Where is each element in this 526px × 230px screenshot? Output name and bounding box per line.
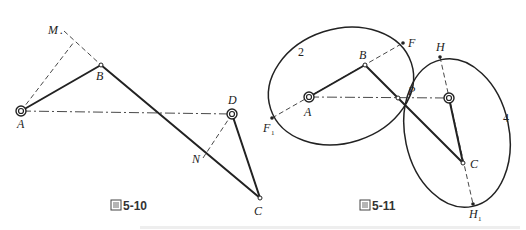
figure-5-10: M . B A D N C 5-10 [16, 23, 263, 218]
label-gear-4: 4 [503, 111, 509, 125]
label-d: D [227, 93, 237, 107]
label-h1-sub: 1 [478, 215, 482, 223]
label-n: N [191, 152, 201, 166]
perpendicular-am [21, 42, 74, 111]
joint-c-icon [258, 196, 262, 200]
svg-text:.: . [60, 23, 63, 37]
link-dc-2 [449, 98, 463, 163]
diagram-canvas: M . B A D N C 5-10 [0, 0, 526, 230]
caption-fig-5-11: 5-11 [372, 199, 396, 213]
label-m: M [47, 23, 59, 37]
frame-centerline-2 [309, 97, 449, 98]
joint-b2-icon [363, 63, 367, 67]
label-b: B [96, 69, 104, 83]
cutoff-text-line [140, 226, 520, 229]
label-p: P [407, 84, 416, 98]
extension-bm [64, 31, 101, 65]
point-f1-icon [270, 116, 274, 120]
ellipse-gear-2 [253, 9, 429, 163]
figure-5-11: 2 4 B F F 1 A P H C H 1 5-11 [253, 9, 523, 223]
joint-b-icon [99, 63, 103, 67]
label-a2: A [303, 105, 312, 119]
point-p-icon [396, 96, 400, 100]
link-ab-2 [309, 65, 365, 97]
point-f-icon [401, 41, 405, 45]
link-ab [21, 65, 101, 111]
label-f1-sub: 1 [271, 129, 275, 137]
label-c2: C [470, 157, 479, 171]
label-f: F [407, 36, 416, 50]
label-c: C [254, 204, 263, 218]
point-h1-icon [471, 202, 475, 206]
frame-centerline [21, 111, 232, 114]
label-h: H [435, 40, 446, 54]
label-f1: F [262, 121, 271, 135]
joint-c2-icon [461, 161, 465, 165]
label-gear-2: 2 [298, 45, 304, 59]
perpendicular-dn [203, 114, 232, 158]
link-bc [101, 65, 260, 198]
label-b2: B [359, 48, 367, 62]
point-h-icon [438, 55, 442, 59]
caption-fig-5-10: 5-10 [123, 199, 147, 213]
label-a: A [16, 117, 25, 131]
